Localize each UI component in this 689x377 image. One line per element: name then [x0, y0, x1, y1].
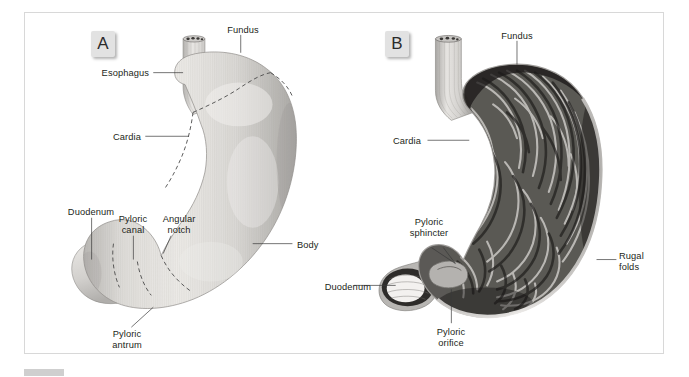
panel-a-illustration: [25, 13, 365, 353]
label-duodenum-b: Duodenum: [293, 282, 371, 293]
label-fundus-b: Fundus: [495, 31, 539, 42]
figure-caption-row: [24, 366, 664, 377]
label-cardia-b: Cardia: [373, 136, 421, 147]
label-angular-notch-a: Angular notch: [155, 214, 203, 235]
figure-caption-tag: [24, 369, 64, 376]
panel-b: B: [365, 13, 665, 353]
label-rugal-folds-b: Rugal folds: [619, 251, 663, 272]
panel-b-illustration: [365, 13, 665, 353]
label-body-a: Body: [297, 240, 347, 251]
label-pyloric-sphincter-b: Pyloric sphincter: [401, 217, 457, 238]
panel-a: A: [25, 13, 365, 353]
label-cardia-a: Cardia: [93, 132, 141, 143]
label-fundus-a: Fundus: [221, 25, 265, 36]
label-pyloric-antrum-a: Pyloric antrum: [101, 329, 153, 350]
label-pyloric-orifice-b: Pyloric orifice: [423, 327, 479, 348]
label-pyloric-canal-a: Pyloric canal: [109, 214, 157, 235]
figure-frame: A: [24, 12, 664, 354]
label-esophagus-a: Esophagus: [83, 68, 149, 79]
